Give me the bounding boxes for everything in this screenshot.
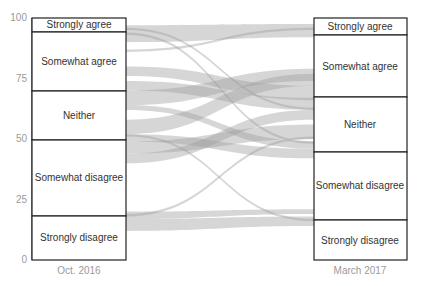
stratum-label: Neither <box>63 110 96 121</box>
y-axis: 100 75 50 25 0 <box>10 12 32 265</box>
stratum-label: Somewhat agree <box>322 61 398 72</box>
stratum-label: Strongly disagree <box>321 235 399 246</box>
stratum-label: Neither <box>344 119 377 130</box>
stratum-label: Somewhat disagree <box>35 172 124 183</box>
flow-bands <box>126 24 314 231</box>
y-tick-label: 25 <box>16 194 28 205</box>
stratum-label: Strongly disagree <box>40 232 118 243</box>
alluvial-chart: 100 75 50 25 0 Strongly agree Somewhat a… <box>0 0 421 286</box>
x-label-oct-2016: Oct. 2016 <box>57 265 101 276</box>
stratum-label: Strongly agree <box>327 21 392 32</box>
y-tick-label: 100 <box>10 12 27 23</box>
x-label-march-2017: March 2017 <box>334 265 387 276</box>
stratum-label: Strongly agree <box>46 19 111 30</box>
y-tick-label: 50 <box>16 133 28 144</box>
stratum-label: Somewhat agree <box>41 56 117 67</box>
y-tick-label: 0 <box>21 254 27 265</box>
column-march-2017: Strongly agree Somewhat agree Neither So… <box>314 18 407 276</box>
y-tick-label: 75 <box>16 73 28 84</box>
column-oct-2016: Strongly agree Somewhat agree Neither So… <box>32 18 126 276</box>
stratum-label: Somewhat disagree <box>316 180 405 191</box>
